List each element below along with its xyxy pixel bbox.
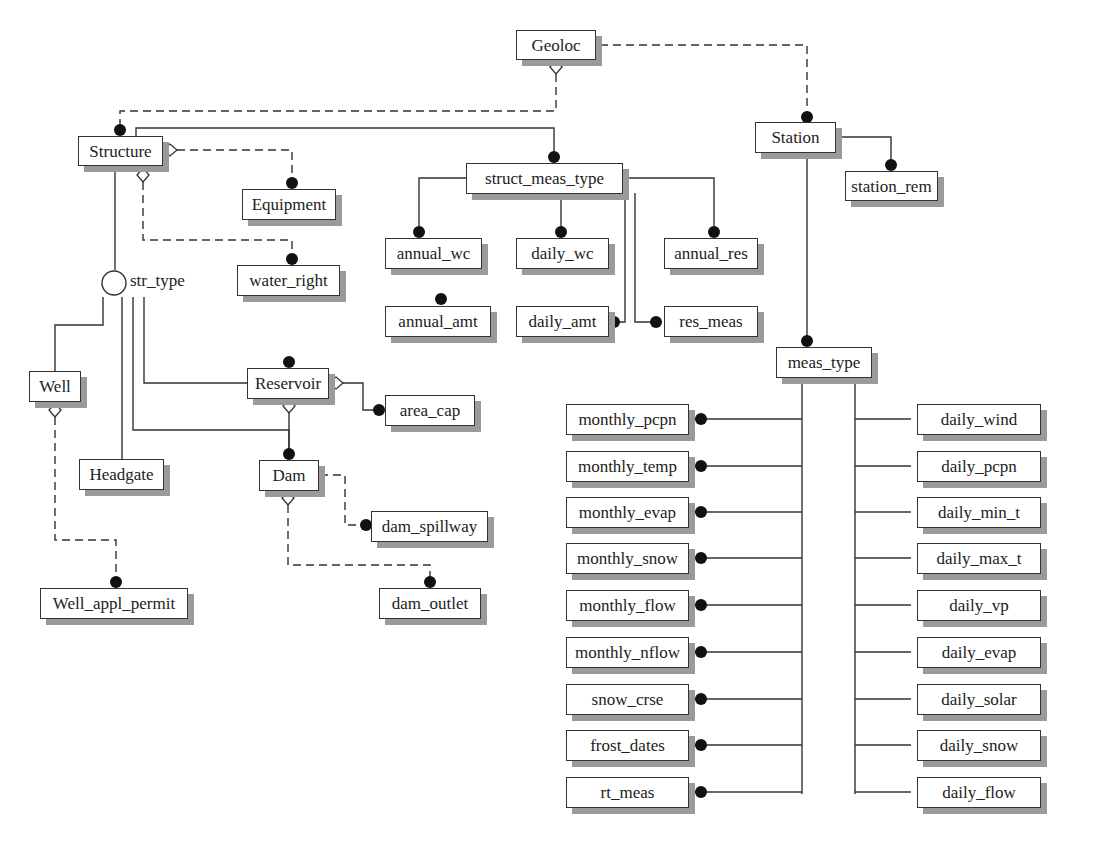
entity-reservoir[interactable]: Reservoir [247,368,329,399]
entity-daily-flow[interactable]: daily_flow [917,777,1041,808]
entity-monthly-pcpn[interactable]: monthly_pcpn [566,404,689,435]
entity-monthly-nflow[interactable]: monthly_nflow [566,637,689,668]
entity-area-cap[interactable]: area_cap [385,395,475,426]
entity-monthly-temp[interactable]: monthly_temp [566,451,689,482]
entity-daily-solar[interactable]: daily_solar [917,684,1041,715]
entity-daily-evap[interactable]: daily_evap [917,637,1041,668]
entity-frost-dates[interactable]: frost_dates [566,730,689,761]
entity-structure[interactable]: Structure [78,136,163,166]
entity-headgate[interactable]: Headgate [79,459,164,490]
entity-res-meas[interactable]: res_meas [664,306,758,337]
entity-daily-amt[interactable]: daily_amt [516,306,609,337]
entity-meas-type[interactable]: meas_type [776,347,872,378]
entity-well-appl-permit[interactable]: Well_appl_permit [40,588,188,619]
entity-snow-crse[interactable]: snow_crse [566,684,689,715]
entity-well[interactable]: Well [29,371,81,402]
entity-daily-min-t[interactable]: daily_min_t [917,497,1041,528]
entity-station[interactable]: Station [755,122,836,153]
entity-monthly-flow[interactable]: monthly_flow [566,590,689,621]
entity-annual-res[interactable]: annual_res [664,238,758,269]
entity-daily-wc[interactable]: daily_wc [516,238,609,269]
entity-geoloc[interactable]: Geoloc [516,30,596,60]
entity-dam-outlet[interactable]: dam_outlet [379,588,481,619]
entity-daily-pcpn[interactable]: daily_pcpn [917,451,1041,482]
entity-monthly-evap[interactable]: monthly_evap [566,497,689,528]
entity-annual-wc[interactable]: annual_wc [385,238,482,269]
entity-daily-max-t[interactable]: daily_max_t [917,543,1041,574]
entity-daily-vp[interactable]: daily_vp [917,590,1041,621]
entity-daily-wind[interactable]: daily_wind [917,404,1041,435]
entity-station-rem[interactable]: station_rem [845,171,938,201]
entity-struct-meas-type[interactable]: struct_meas_type [466,163,623,194]
entity-monthly-snow[interactable]: monthly_snow [566,543,689,574]
entity-water-right[interactable]: water_right [237,265,340,296]
entity-dam-spillway[interactable]: dam_spillway [371,511,488,542]
entity-equipment[interactable]: Equipment [242,189,336,220]
str-type-label: str_type [130,271,185,291]
entity-rt-meas[interactable]: rt_meas [566,777,689,808]
er-diagram: Geoloc Station station_rem Structure Equ… [0,0,1096,847]
entity-daily-snow[interactable]: daily_snow [917,730,1041,761]
entity-dam[interactable]: Dam [259,460,319,491]
entity-annual-amt[interactable]: annual_amt [385,306,491,337]
